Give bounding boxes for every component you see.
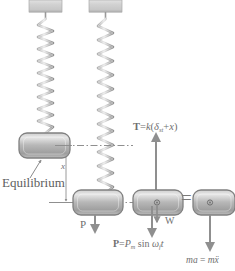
force-time: t [161,238,164,249]
force-sin: sin [138,238,150,249]
inertia-accel: a [193,255,198,265]
coil-spring-right [98,12,113,199]
inertia-equals: = [200,255,205,265]
tension-label: T=k(δst+x) [133,122,177,133]
equilibrium-label: Equilibrium [2,176,65,189]
diagram-canvas: Equilibrium x T=k(δst+x) P W P=Pm sin ωf… [0,0,235,271]
coil-spring-left [38,12,53,140]
weight-label: W [165,216,174,226]
diagram-svg [0,0,235,271]
equals-sign: = [181,188,192,207]
applied-force-label: P=Pm sin ωft [113,239,164,250]
inertia-xddot: ẍ [215,255,219,265]
tension-close-paren: ) [174,121,178,132]
inertia-mass: m [186,255,193,265]
mass-block-equilibrium [19,133,70,158]
ceiling-support-right [89,0,122,13]
force-amplitude-sub: m [131,243,135,250]
inertia-mass2: m [208,255,215,265]
mass-block-free-body [133,134,183,236]
force-omega: ω [152,238,159,249]
ceiling-support-left [29,0,62,13]
applied-force-left-label: P [80,219,86,230]
displacement-label: x [61,162,65,171]
inertia-label: ma = mẍ [186,256,219,266]
mass-block-inertia [193,190,235,250]
tension-symbol: T [133,121,140,132]
